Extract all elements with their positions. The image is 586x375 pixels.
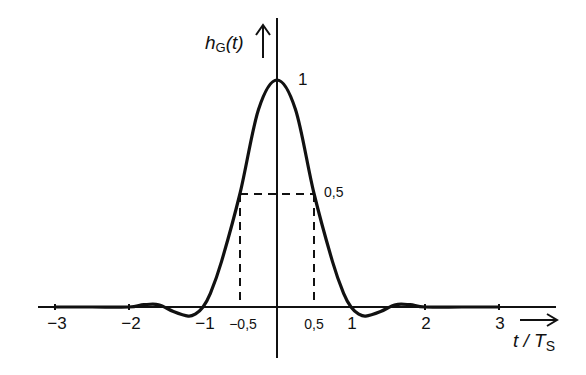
x-label-main: t / T xyxy=(513,330,546,351)
peak-value-label: 1 xyxy=(298,70,307,90)
x-tick-label: 1 xyxy=(347,314,356,334)
y-label-main: h xyxy=(205,32,216,53)
y-label-argument: (t) xyxy=(226,32,244,53)
half-value-label: 0,5 xyxy=(324,184,343,200)
y-axis-label: hG(t) xyxy=(205,32,244,55)
y-axis-arrow-icon xyxy=(256,25,270,58)
x-tick-label: −1 xyxy=(195,314,214,334)
x-axis-label: t / TS xyxy=(513,330,555,354)
x-tick-label: 0,5 xyxy=(304,316,323,332)
x-tick-label: −0,5 xyxy=(229,316,257,332)
x-tick-label: −3 xyxy=(47,314,66,334)
x-axis-arrow-icon xyxy=(520,314,557,326)
x-label-subscript: S xyxy=(546,338,555,354)
y-label-subscript: G xyxy=(216,40,226,55)
x-tick-label: 2 xyxy=(421,314,430,334)
x-tick-label: −2 xyxy=(121,314,140,334)
x-tick-label: 3 xyxy=(495,314,504,334)
